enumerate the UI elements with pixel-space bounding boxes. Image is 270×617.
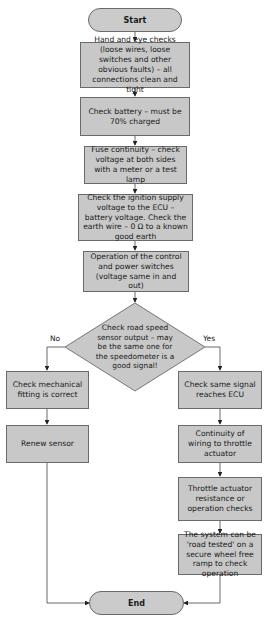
step-text: Continuity of wiring to throttle actuato… <box>183 429 257 459</box>
step-text: Renew sensor <box>21 439 74 449</box>
arrow-decision-no <box>47 347 65 370</box>
step-fuse-continuity: Fuse continuity – check voltage at both … <box>84 146 187 184</box>
decision-text: Check road speed sensor output – may be … <box>95 318 175 376</box>
step-check-signal-ecu: Check same signal reaches ECU <box>178 371 262 409</box>
step-text: Check same signal reaches ECU <box>183 380 257 400</box>
step-renew-sensor: Renew sensor <box>6 425 89 463</box>
arrow-no2-to-end <box>47 462 89 603</box>
step-road-test: The system can be 'road tested' on a sec… <box>178 534 262 575</box>
start-terminal: Start <box>88 8 182 32</box>
step-text: Check the ignition supply voltage to the… <box>83 193 188 242</box>
step-text: Fuse continuity – check voltage at both … <box>89 145 182 184</box>
arrow-decision-yes <box>205 347 220 370</box>
no-label: No <box>50 334 60 343</box>
end-label: End <box>128 599 145 608</box>
yes-label: Yes <box>203 334 215 343</box>
step-wiring-continuity: Continuity of wiring to throttle actuato… <box>178 425 262 463</box>
start-label: Start <box>124 16 147 25</box>
step-text: Hand and eye checks (loose wires, loose … <box>85 35 185 94</box>
step-text: Throttle actuator resistance or operatio… <box>183 484 257 514</box>
step-check-mechanical-fitting: Check mechanical fitting is correct <box>6 371 89 409</box>
step-text: Check mechanical fitting is correct <box>11 380 84 400</box>
step-check-battery: Check battery – must be 70% charged <box>80 97 190 136</box>
step-ignition-supply: Check the ignition supply voltage to the… <box>78 194 193 241</box>
step-text: Check battery – must be 70% charged <box>85 107 185 127</box>
step-throttle-actuator-checks: Throttle actuator resistance or operatio… <box>178 477 262 521</box>
step-hand-eye-checks: Hand and eye checks (loose wires, loose … <box>80 42 190 88</box>
step-control-switches: Operation of the control and power switc… <box>83 251 189 292</box>
step-text: Operation of the control and power switc… <box>88 252 184 291</box>
end-terminal: End <box>89 591 184 615</box>
step-text: The system can be 'road tested' on a sec… <box>183 530 257 579</box>
